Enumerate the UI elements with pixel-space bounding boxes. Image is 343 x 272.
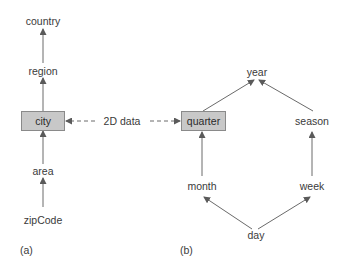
- link-label-2d-data: 2D data: [101, 115, 144, 127]
- diagram-edges: [0, 0, 343, 272]
- edge-quarter-year: [203, 80, 254, 111]
- caption-b: (b): [180, 244, 193, 256]
- node-city: city: [21, 111, 65, 131]
- node-city-label: city: [35, 115, 51, 127]
- node-region: region: [28, 65, 57, 78]
- node-month: month: [187, 180, 216, 193]
- node-day: day: [248, 229, 265, 242]
- node-week: week: [300, 180, 325, 193]
- node-country: country: [26, 15, 60, 28]
- node-area: area: [32, 165, 53, 178]
- node-quarter: quarter: [181, 111, 226, 131]
- node-zipcode: zipCode: [24, 214, 63, 227]
- node-season: season: [295, 115, 329, 128]
- edge-day-month: [204, 197, 252, 229]
- caption-a: (a): [20, 244, 33, 256]
- edge-season-year: [259, 80, 313, 111]
- node-year: year: [247, 66, 267, 79]
- edge-day-week: [258, 197, 310, 229]
- node-quarter-label: quarter: [187, 115, 220, 127]
